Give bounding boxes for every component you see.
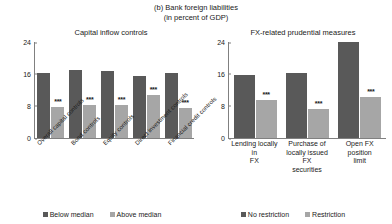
right-panel-title: FX-related prudential measures [198, 28, 388, 37]
legend-label-restriction: Restriction [312, 211, 345, 218]
legend-item-above-median[interactable]: Above median [110, 211, 162, 218]
bar-no-restriction-lending-locally-in-fx[interactable] [234, 75, 255, 138]
bar-restriction-lending-locally-in-fx[interactable]: *** [256, 100, 277, 138]
figure-title: (b) Bank foreign liabilities (in percent… [0, 3, 392, 23]
bar-group-lending-locally-in-fx: *** [229, 42, 281, 138]
significance-marker: *** [263, 91, 270, 98]
x-label-purchase-of-locally-issued-fx-securities: Purchase of locally issued FX securities [281, 140, 334, 176]
left-legend: Below median Above median [6, 211, 198, 218]
significance-marker: *** [367, 88, 374, 95]
bar-group-purchase-of-locally-issued-fx-securities: *** [281, 42, 333, 138]
left-ytick-8: 8 [27, 102, 35, 109]
x-label-lending-locally-in-fx: Lending locally in FX [228, 140, 281, 176]
legend-swatch-icon [241, 212, 246, 217]
left-ytick-16: 16 [23, 70, 35, 77]
significance-marker: *** [315, 100, 322, 107]
right-ytick-8: 8 [221, 102, 229, 109]
bar-restriction-purchase-of-locally-issued-fx-securities[interactable]: *** [308, 109, 329, 138]
figure-title-line1: (b) Bank foreign liabilities [154, 3, 238, 12]
x-label-line1: Purchase of [282, 140, 333, 149]
x-label-line1: Lending locally in [229, 140, 280, 157]
bar-no-restriction-purchase-of-locally-issued-fx-securities[interactable] [286, 73, 307, 138]
right-axes: 24 16 8 0 *** *** [228, 42, 386, 139]
left-ytick-24: 24 [23, 39, 35, 46]
right-ytick-16: 16 [217, 70, 229, 77]
legend-item-no-restriction[interactable]: No restriction [241, 211, 289, 218]
legend-item-restriction[interactable]: Restriction [305, 211, 345, 218]
significance-marker: *** [54, 98, 61, 105]
chart-panel-fx-related-prudential-measures: FX-related prudential measures 24 16 8 0… [198, 28, 388, 224]
right-x-axis-labels: Lending locally in FX Purchase of locall… [228, 140, 386, 176]
bar-below-median-direct-investment-controls[interactable] [133, 76, 146, 138]
x-label-line2: FX [229, 157, 280, 166]
legend-swatch-icon [305, 212, 310, 217]
x-label-line1: Open FX position [334, 140, 385, 157]
left-panel-title: Capital inflow controls [6, 28, 198, 37]
legend-swatch-icon [43, 212, 48, 217]
x-label-line3: securities [282, 166, 333, 175]
left-plot-area: 24 16 8 0 *** *** [6, 40, 198, 148]
right-bar-group-container: *** *** *** [229, 42, 386, 138]
legend-label-no-restriction: No restriction [248, 211, 289, 218]
x-label-line2: locally issued FX [282, 149, 333, 166]
bar-group-open-fx-position-limit: *** [334, 42, 386, 138]
significance-marker: *** [150, 86, 157, 93]
legend-swatch-icon [110, 212, 115, 217]
legend-label-below-median: Below median [50, 211, 94, 218]
x-label-line2: limit [334, 157, 385, 166]
bar-no-restriction-open-fx-position-limit[interactable] [338, 42, 359, 138]
chart-panel-capital-inflow-controls: Capital inflow controls 24 16 8 0 *** **… [6, 28, 198, 224]
legend-item-below-median[interactable]: Below median [43, 211, 94, 218]
right-ytick-24: 24 [217, 39, 229, 46]
left-x-axis-labels: Overall capital controls Bond controls E… [34, 140, 194, 206]
significance-marker: *** [86, 96, 93, 103]
bar-below-median-equity-controls[interactable] [101, 71, 114, 138]
x-label-open-fx-position-limit: Open FX position limit [333, 140, 386, 176]
bar-restriction-open-fx-position-limit[interactable]: *** [360, 97, 381, 138]
right-plot-area: 24 16 8 0 *** *** [198, 40, 388, 148]
significance-marker: *** [118, 96, 125, 103]
legend-label-above-median: Above median [117, 211, 162, 218]
right-legend: No restriction Restriction [198, 211, 388, 218]
figure-title-line2: (in percent of GDP) [0, 13, 392, 23]
